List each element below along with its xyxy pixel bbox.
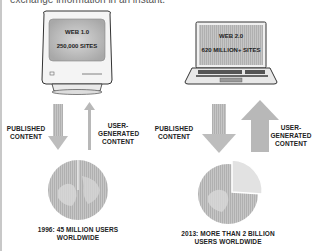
web2-user-label: USER- GENERATED CONTENT (270, 124, 312, 148)
web2-caption: 2013: MORE THAN 2 BILLION USERS WORLDWID… (178, 230, 278, 246)
web1-title: WEB 1.0 (49, 28, 105, 36)
web2-caption-line1: 2013: MORE THAN 2 BILLION (178, 230, 278, 238)
web2-user-line3: CONTENT (270, 140, 312, 148)
published-content-arrow-down (48, 104, 68, 150)
published-content-arrow-down (202, 104, 236, 153)
web1-user-label: USER- GENERATED CONTENT (98, 122, 138, 146)
web2-published-line1: PUBLISHED (154, 125, 194, 133)
globe-2013-icon (198, 160, 262, 224)
user-content-arrow-up (84, 102, 95, 150)
web1-published-line1: PUBLISHED (6, 125, 46, 133)
web2-user-line1: USER- (270, 124, 312, 132)
web1-user-line1: USER- (98, 122, 138, 130)
web2-published-label: PUBLISHED CONTENT (154, 125, 194, 141)
web1-caption: 1996: 45 MILLION USERS WORLDWIDE (28, 226, 128, 242)
crt-monitor-icon (42, 11, 112, 95)
web1-caption-line2: WORLDWIDE (28, 234, 128, 242)
web2-user-line2: GENERATED (270, 132, 312, 140)
web1-sites: 250,000 SITES (45, 42, 109, 50)
web1-caption-line1: 1996: 45 MILLION USERS (28, 226, 128, 234)
web1-user-line3: CONTENT (98, 138, 138, 146)
web2-sites: 620 MILLION+ SITES (195, 46, 267, 54)
globe-1996-icon (48, 156, 108, 220)
web2-title: WEB 2.0 (199, 32, 263, 40)
web1-published-line2: CONTENT (6, 133, 46, 141)
web1-user-line2: GENERATED (98, 130, 138, 138)
web1-published-label: PUBLISHED CONTENT (6, 125, 46, 141)
web2-published-line2: CONTENT (154, 133, 194, 141)
web2-caption-line2: USERS WORLDWIDE (178, 238, 278, 246)
